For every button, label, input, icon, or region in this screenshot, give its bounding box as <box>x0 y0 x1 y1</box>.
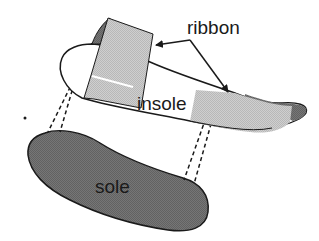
ribbon-right-strap <box>190 90 292 133</box>
sole: sole <box>28 131 208 231</box>
sole-label: sole <box>95 176 130 197</box>
ribbon-arrow-left <box>156 40 190 45</box>
shoe-structure-diagram: sole insole ribbon <box>0 0 319 241</box>
insole-label: insole <box>137 93 187 114</box>
stray-dot <box>24 117 27 120</box>
insole: insole <box>60 18 306 133</box>
ribbon-label: ribbon <box>187 17 240 38</box>
